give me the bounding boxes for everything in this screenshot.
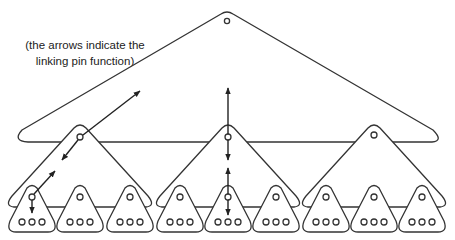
- linking-pin-diagram: [0, 0, 455, 240]
- top-pin: [224, 18, 229, 23]
- bottom-groups: [9, 186, 445, 233]
